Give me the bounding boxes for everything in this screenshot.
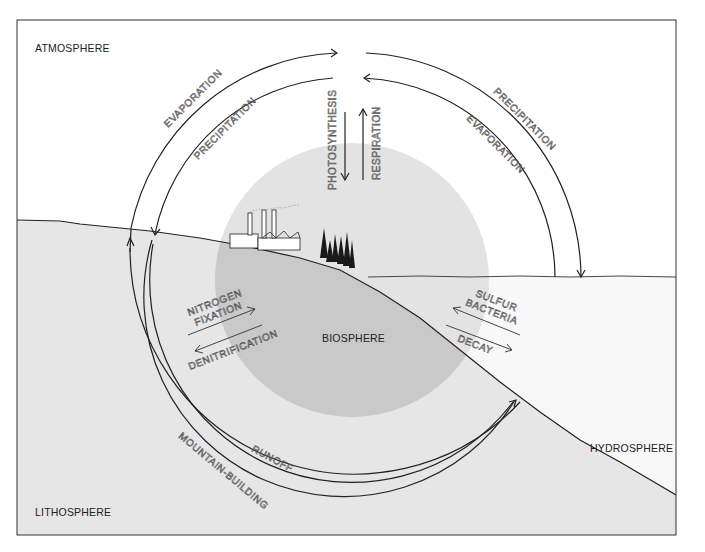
- atmosphere-label: ATMOSPHERE: [35, 42, 110, 54]
- lithosphere-label: LITHOSPHERE: [35, 506, 111, 518]
- hydrosphere-label: HYDROSPHERE: [590, 442, 673, 454]
- respiration-label: RESPIRATION: [371, 106, 382, 180]
- biosphere-label: BIOSPHERE: [322, 332, 385, 344]
- photosynthesis-label: PHOTOSYNTHESIS: [327, 90, 338, 190]
- frame: [17, 20, 676, 536]
- biogeochemical-cycle-diagram: ATMOSPHERE LITHOSPHERE HYDROSPHERE BIOSP…: [0, 0, 705, 552]
